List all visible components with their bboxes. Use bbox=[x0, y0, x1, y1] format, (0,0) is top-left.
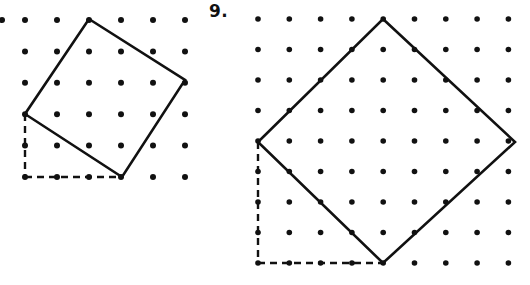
grid-dot bbox=[86, 143, 92, 149]
worksheet-canvas: 9. bbox=[0, 0, 530, 285]
grid-dot bbox=[22, 17, 28, 23]
grid-dot bbox=[380, 169, 386, 175]
problem-number-label: 9. bbox=[209, 3, 228, 20]
grid-dot bbox=[318, 230, 324, 236]
grid-dot bbox=[0, 17, 5, 23]
grid-dot bbox=[349, 169, 355, 175]
grid-dot bbox=[412, 138, 418, 144]
grid-dot bbox=[474, 47, 480, 53]
grid-dot bbox=[506, 260, 512, 266]
grid-dot bbox=[255, 47, 261, 53]
grid-dot bbox=[506, 169, 512, 175]
grid-dot bbox=[412, 260, 418, 266]
grid-dot bbox=[380, 47, 386, 53]
grid-dot bbox=[412, 108, 418, 114]
grid-dot bbox=[443, 169, 449, 175]
grid-dot bbox=[150, 80, 156, 86]
grid-dot bbox=[443, 138, 449, 144]
grid-dot bbox=[318, 47, 324, 53]
grid-dot bbox=[506, 230, 512, 236]
grid-dot bbox=[506, 199, 512, 205]
grid-dot bbox=[380, 199, 386, 205]
grid-dot bbox=[474, 138, 480, 144]
grid-dot bbox=[443, 230, 449, 236]
grid-dot bbox=[380, 230, 386, 236]
grid-dot bbox=[287, 77, 293, 83]
grid-dot bbox=[287, 16, 293, 22]
grid-dot bbox=[474, 77, 480, 83]
grid-dot bbox=[349, 77, 355, 83]
grid-dot bbox=[54, 17, 60, 23]
grid-dot bbox=[349, 16, 355, 22]
grid-dot bbox=[412, 77, 418, 83]
grid-dot bbox=[22, 80, 28, 86]
grid-dot bbox=[474, 199, 480, 205]
grid-dot bbox=[443, 260, 449, 266]
grid-dot bbox=[318, 169, 324, 175]
grid-dot bbox=[150, 143, 156, 149]
tilted-square bbox=[25, 19, 185, 177]
grid-dot bbox=[150, 111, 156, 117]
left-geoboard-group bbox=[0, 17, 188, 180]
grid-dot bbox=[150, 48, 156, 54]
grid-dot bbox=[22, 48, 28, 54]
grid-dot bbox=[255, 16, 261, 22]
grid-dot bbox=[54, 143, 60, 149]
grid-dot bbox=[318, 108, 324, 114]
grid-dot bbox=[287, 199, 293, 205]
grid-dot bbox=[54, 111, 60, 117]
grid-dot bbox=[474, 260, 480, 266]
grid-dot bbox=[349, 138, 355, 144]
grid-dot bbox=[182, 174, 188, 180]
grid-dot bbox=[118, 17, 124, 23]
grid-dot bbox=[412, 199, 418, 205]
grid-dot bbox=[443, 108, 449, 114]
grid-dot bbox=[150, 174, 156, 180]
grid-dot bbox=[506, 16, 512, 22]
grid-dot bbox=[349, 199, 355, 205]
grid-dot bbox=[412, 169, 418, 175]
grid-dot bbox=[443, 16, 449, 22]
grid-dot bbox=[474, 230, 480, 236]
grid-dot bbox=[54, 80, 60, 86]
grid-dot bbox=[412, 16, 418, 22]
grid-dot bbox=[118, 143, 124, 149]
grid-dot bbox=[255, 77, 261, 83]
geoboard-figures-svg bbox=[0, 0, 530, 285]
grid-dot bbox=[118, 80, 124, 86]
grid-dot bbox=[182, 48, 188, 54]
grid-dot bbox=[380, 77, 386, 83]
right-geoboard-group bbox=[255, 16, 515, 266]
grid-dot bbox=[86, 48, 92, 54]
grid-dot bbox=[349, 108, 355, 114]
grid-dot bbox=[287, 138, 293, 144]
grid-dot bbox=[318, 16, 324, 22]
grid-dot bbox=[182, 143, 188, 149]
grid-dot bbox=[380, 108, 386, 114]
grid-dot bbox=[506, 108, 512, 114]
grid-dot bbox=[287, 230, 293, 236]
grid-dot bbox=[118, 111, 124, 117]
grid-dot bbox=[474, 16, 480, 22]
grid-dot bbox=[506, 47, 512, 53]
grid-dot bbox=[182, 111, 188, 117]
grid-dot bbox=[150, 17, 156, 23]
grid-dot bbox=[380, 138, 386, 144]
grid-dot bbox=[443, 47, 449, 53]
grid-dot bbox=[54, 48, 60, 54]
grid-dot bbox=[255, 108, 261, 114]
grid-dot bbox=[506, 77, 512, 83]
grid-dot bbox=[86, 80, 92, 86]
grid-dot bbox=[182, 17, 188, 23]
grid-dot bbox=[318, 138, 324, 144]
grid-dot bbox=[287, 47, 293, 53]
grid-dot bbox=[118, 48, 124, 54]
grid-dot bbox=[86, 111, 92, 117]
grid-dot bbox=[349, 260, 355, 266]
